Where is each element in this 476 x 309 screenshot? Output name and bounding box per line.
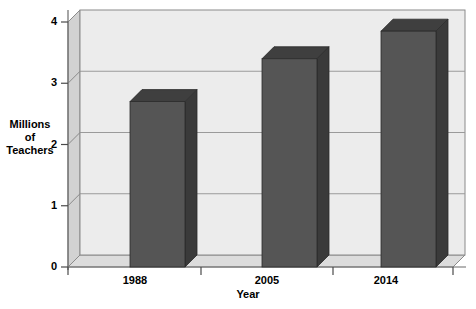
- x-category-label-2005: 2005: [232, 274, 302, 286]
- y-axis-title-line-3: Teachers: [2, 144, 58, 157]
- bar-2014-side: [436, 19, 448, 267]
- bar-2014[interactable]: [381, 19, 448, 267]
- bar-2005-front: [262, 59, 317, 267]
- bar-1988-side: [185, 90, 197, 267]
- y-tick-label-0: 0: [41, 260, 57, 272]
- bar-2014-front: [381, 31, 436, 267]
- x-axis-title: Year: [208, 288, 288, 301]
- bar-chart: 4 3 2 1 0 Millions of Teachers 1988 2005…: [0, 0, 476, 309]
- y-tick-label-1: 1: [41, 199, 57, 211]
- x-category-label-1988: 1988: [100, 274, 170, 286]
- bar-1988[interactable]: [130, 90, 197, 267]
- y-tick-label-4: 4: [41, 15, 57, 27]
- bar-1988-front: [130, 102, 185, 267]
- y-axis-title-line-2: of: [2, 131, 58, 144]
- x-category-label-2014: 2014: [351, 274, 421, 286]
- bar-2005[interactable]: [262, 47, 329, 267]
- chart-canvas: [0, 0, 476, 309]
- y-axis-title-line-1: Millions: [2, 118, 58, 131]
- bar-2005-side: [317, 47, 329, 267]
- y-axis-title: Millions of Teachers: [2, 118, 58, 157]
- y-tick-label-3: 3: [41, 76, 57, 88]
